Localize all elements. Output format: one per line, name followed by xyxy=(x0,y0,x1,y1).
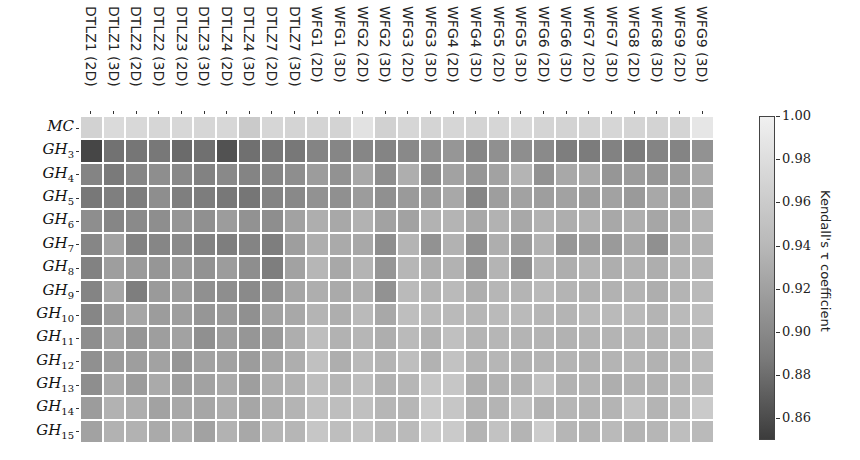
heatmap-cell xyxy=(262,234,283,255)
heatmap-cell xyxy=(149,117,170,138)
x-tick xyxy=(656,111,657,114)
x-axis-label: WFG9 (3D) xyxy=(691,4,713,109)
heatmap-cell xyxy=(126,397,147,418)
heatmap-cell xyxy=(375,327,396,348)
x-axis-label-text: WFG5 (2D) xyxy=(491,6,507,83)
heatmap-cell xyxy=(421,257,442,278)
x-axis-label-text: DTLZ7 (2D) xyxy=(264,6,280,87)
heatmap-cell xyxy=(534,281,555,302)
colorbar-tick-label: 1.00 xyxy=(782,108,811,123)
heatmap-cell xyxy=(307,351,328,372)
heatmap-cell xyxy=(692,210,713,231)
heatmap-cell xyxy=(239,421,260,442)
heatmap-cell xyxy=(602,187,623,208)
y-axis-label-base: GH xyxy=(43,140,68,158)
heatmap-cell xyxy=(556,140,577,161)
heatmap-cell xyxy=(511,327,532,348)
heatmap-cell xyxy=(398,281,419,302)
heatmap-cell xyxy=(149,421,170,442)
x-tick xyxy=(588,111,589,114)
heatmap-cell xyxy=(602,234,623,255)
x-axis-label-text: DTLZ3 (2D) xyxy=(174,6,190,87)
heatmap-cell xyxy=(670,140,691,161)
heatmap-cell xyxy=(579,187,600,208)
heatmap-cell xyxy=(647,304,668,325)
heatmap-cell xyxy=(126,421,147,442)
heatmap-cell xyxy=(670,421,691,442)
x-axis-label-text: WFG6 (3D) xyxy=(558,6,574,83)
heatmap-cell xyxy=(624,164,645,185)
heatmap-cell xyxy=(489,421,510,442)
x-axis-label: DTLZ1 (2D) xyxy=(80,4,102,109)
x-axis-label: WFG8 (2D) xyxy=(623,4,645,109)
heatmap-cell xyxy=(398,117,419,138)
heatmap-cell xyxy=(330,234,351,255)
x-axis-label: WFG5 (3D) xyxy=(510,4,532,109)
y-axis-label: GH15 xyxy=(0,421,74,441)
x-axis-label-text: WFG9 (3D) xyxy=(694,6,710,83)
heatmap-cell xyxy=(511,421,532,442)
heatmap-cell xyxy=(624,421,645,442)
heatmap-cell xyxy=(330,117,351,138)
colorbar-tick xyxy=(776,332,780,333)
heatmap-cell xyxy=(330,421,351,442)
y-axis-label-base: GH xyxy=(36,327,61,345)
heatmap-cell xyxy=(670,304,691,325)
heatmap-cell xyxy=(556,164,577,185)
heatmap-cell xyxy=(353,374,374,395)
heatmap-cell xyxy=(443,327,464,348)
heatmap-cell xyxy=(239,374,260,395)
heatmap-cell xyxy=(398,351,419,372)
heatmap-cell xyxy=(217,164,238,185)
heatmap-cell xyxy=(421,210,442,231)
heatmap-cell xyxy=(239,304,260,325)
heatmap-cell xyxy=(602,374,623,395)
heatmap-cell xyxy=(330,397,351,418)
heatmap-cell xyxy=(443,397,464,418)
y-axis-label-base: GH xyxy=(43,257,68,275)
x-axis-label: WFG2 (2D) xyxy=(352,4,374,109)
heatmap-cell xyxy=(104,374,125,395)
heatmap-cell xyxy=(375,257,396,278)
heatmap-cell xyxy=(262,164,283,185)
heatmap-cell xyxy=(285,421,306,442)
heatmap-cell xyxy=(670,257,691,278)
colorbar-tick-label: 0.98 xyxy=(782,151,811,166)
heatmap-cell xyxy=(194,210,215,231)
x-axis-label: WFG7 (2D) xyxy=(578,4,600,109)
heatmap-cell xyxy=(579,257,600,278)
heatmap-cell xyxy=(126,140,147,161)
heatmap-cell xyxy=(217,281,238,302)
heatmap-cell xyxy=(692,281,713,302)
colorbar-tick-label: 0.90 xyxy=(782,324,811,339)
y-axis-label-subscript: 10 xyxy=(61,313,74,324)
heatmap-cell xyxy=(330,304,351,325)
heatmap-cell xyxy=(647,327,668,348)
heatmap-cell xyxy=(217,397,238,418)
heatmap-cell xyxy=(511,164,532,185)
colorbar-tick-label: 0.92 xyxy=(782,281,811,296)
y-axis-label-base: GH xyxy=(43,187,68,205)
heatmap-cell xyxy=(670,281,691,302)
x-tick xyxy=(317,111,318,114)
heatmap-cell xyxy=(81,397,102,418)
heatmap-cell xyxy=(330,257,351,278)
heatmap-cell xyxy=(81,210,102,231)
heatmap-cell xyxy=(330,374,351,395)
x-axis-label-text: WFG3 (3D) xyxy=(423,6,439,83)
heatmap-cell xyxy=(239,210,260,231)
heatmap-cell xyxy=(602,304,623,325)
heatmap-cell xyxy=(149,374,170,395)
heatmap-cell xyxy=(466,397,487,418)
heatmap-cell xyxy=(353,397,374,418)
heatmap-cell xyxy=(285,187,306,208)
heatmap-cell xyxy=(670,117,691,138)
heatmap-cell xyxy=(104,117,125,138)
heatmap-cell xyxy=(466,421,487,442)
heatmap-cell xyxy=(375,397,396,418)
heatmap-cell xyxy=(239,117,260,138)
heatmap-cell xyxy=(172,164,193,185)
heatmap-cell xyxy=(126,117,147,138)
colorbar-tick xyxy=(776,202,780,203)
heatmap-cell xyxy=(81,374,102,395)
